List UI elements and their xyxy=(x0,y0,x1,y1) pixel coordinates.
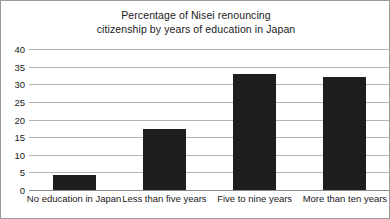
y-tick-label-0: 0 xyxy=(20,185,25,196)
y-tick-label-15: 15 xyxy=(14,132,25,143)
x-axis-label-0: No education in Japan xyxy=(27,193,122,204)
y-tick-label-40: 40 xyxy=(14,44,25,55)
bar-3 xyxy=(323,77,366,191)
x-axis-label-1: Less than five years xyxy=(122,193,207,204)
x-axis-labels: No education in JapanLess than five year… xyxy=(29,193,390,213)
gridline-35: 35 xyxy=(29,67,390,68)
y-tick-label-10: 10 xyxy=(14,149,25,160)
chart-title-line-2: citizenship by years of education in Jap… xyxy=(1,22,390,36)
x-axis-label-2: Five to nine years xyxy=(217,193,292,204)
y-tick-label-35: 35 xyxy=(14,61,25,72)
y-tick-label-25: 25 xyxy=(14,96,25,107)
chart-title: Percentage of Nisei renouncing citizensh… xyxy=(1,8,390,36)
plot-area: 0510152025303540 xyxy=(29,49,390,190)
y-tick-label-5: 5 xyxy=(20,167,25,178)
bar-1 xyxy=(143,129,186,190)
chart-figure: Percentage of Nisei renouncing citizensh… xyxy=(0,0,390,219)
chart-title-line-1: Percentage of Nisei renouncing xyxy=(1,8,390,22)
x-axis-label-3: More than ten years xyxy=(303,193,388,204)
gridline-0: 0 xyxy=(29,190,390,191)
gridline-40: 40 xyxy=(29,49,390,50)
y-tick-label-20: 20 xyxy=(14,114,25,125)
bar-0 xyxy=(53,175,96,190)
y-tick-label-30: 30 xyxy=(14,79,25,90)
bar-2 xyxy=(233,74,276,190)
